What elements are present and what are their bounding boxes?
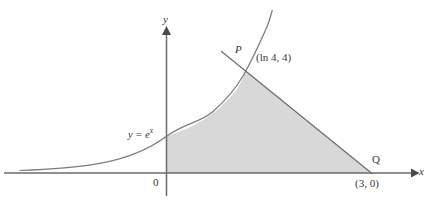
y-axis-label: y [163, 14, 168, 25]
origin-label: 0 [153, 177, 159, 188]
function-equation-label: y = ex [128, 127, 153, 140]
figure-container: y x 0 P (ln 4, 4) Q (3, 0) y = ex [0, 0, 433, 206]
graph-canvas [0, 0, 433, 206]
shaded-area [167, 70, 373, 173]
point-q-label: Q [372, 154, 380, 165]
function-equation-exponent: x [150, 126, 153, 135]
point-p-coordinates-label: (ln 4, 4) [256, 52, 291, 63]
point-q-coordinates-label: (3, 0) [355, 178, 379, 189]
y-axis-arrowhead [162, 26, 171, 35]
x-axis-label: x [419, 166, 424, 177]
function-equation-base: y = e [128, 129, 150, 140]
point-p-label: P [235, 44, 242, 55]
